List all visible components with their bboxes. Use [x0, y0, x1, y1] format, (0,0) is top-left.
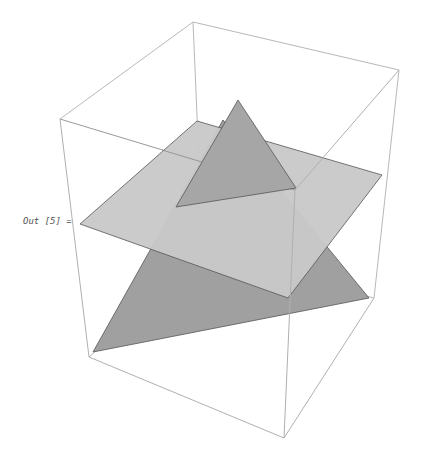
graphics3d-plot[interactable] — [0, 0, 421, 461]
